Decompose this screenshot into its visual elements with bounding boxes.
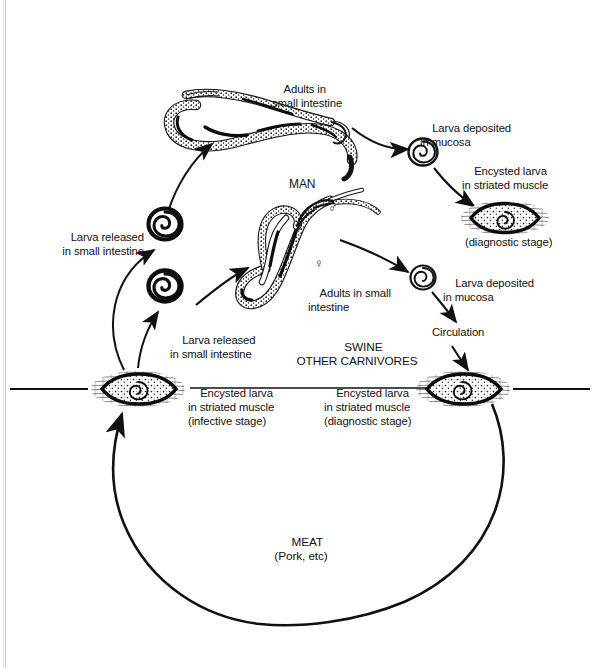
coiled-larva-icon [149,209,182,240]
label-encysted-larva-striated-muscle-top: Encysted larva in striated muscle [462,150,548,206]
coiled-larva-icon [411,266,436,290]
label-adults-small-intestine-man: Adults in small intestine [272,68,342,124]
male-symbol-icon: ♂ [328,201,338,215]
label-encysted-larva-infective: Encysted larva in striated muscle (infec… [188,372,274,442]
arrow-adults-to-mucosa-swine [340,240,408,272]
arrow-cyst-to-larva-released-swine [138,312,158,368]
label-circulation: Circulation [432,325,484,339]
label-adults-small-intestine-swine: Adults in small intestine [308,272,391,328]
figure-canvas: Adults in small intestine Larva deposite… [0,0,601,668]
label-larva-deposited-mucosa-right: Larva deposited in mucosa [443,262,534,318]
label-meat: MEAT (Pork, etc) [236,521,366,577]
arrow-circulation-to-muscle [452,346,468,370]
label-larva-released-small-intestine-lower: Larva released in small intestine [170,319,256,375]
arrow-larva-released-to-adults-man [168,144,212,212]
label-diagnostic-stage-top: (diagnostic stage) [465,235,552,249]
female-symbol-icon: ♀ [314,257,324,271]
encysted-larva-in-muscle-icon [10,366,192,414]
label-man: MAN [289,177,315,191]
label-encysted-larva-diagnostic: Encysted larva in striated muscle (diagn… [324,372,411,442]
arrow-adults-to-mucosa-man [352,128,408,149]
encysted-larva-in-muscle-icon [413,366,590,414]
coiled-larva-icon [149,271,182,302]
arrow-meat-cycle [113,404,503,625]
label-larva-released-small-intestine-upper: Larva released in small intestine [14,216,144,272]
